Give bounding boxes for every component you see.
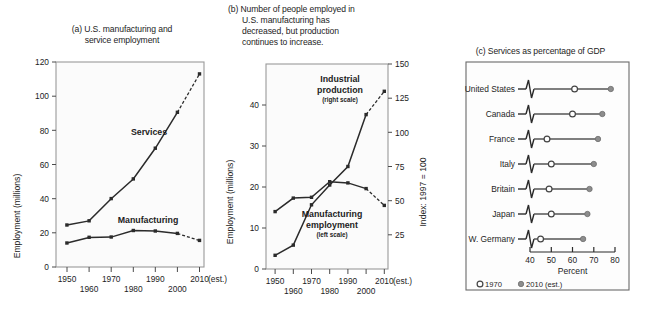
panel-c-marker-1970-3 [548, 161, 554, 167]
panel-b-ytick-left-10: 10 [250, 223, 260, 233]
panel-c-xtick-40: 40 [525, 255, 535, 265]
panel-b-ylabel-left: Employment (millions) [225, 160, 235, 245]
panel-a-y-axis [52, 62, 56, 267]
panel-a-ytick-120: 120 [35, 57, 49, 67]
panel-a-title-line2: service employment [26, 35, 218, 46]
panel-b-ytick-left-20: 20 [250, 182, 260, 192]
panel-b-title-line3: decreased, but production [228, 26, 437, 37]
panel-b-annot-me-line1: Manufacturing [302, 209, 363, 219]
panel-b-title-line4: continues to increase. [228, 37, 437, 48]
panel-c-marker-1970-5 [548, 211, 554, 217]
panel-a-chart: Employment (millions) 0 20 40 60 80 100 … [8, 46, 218, 321]
panel-b-annot-me-line2: employment [306, 220, 358, 230]
panel-b-ytick-right-150: 150 [395, 59, 409, 69]
panel-b-title-line1: (b) Number of people employed in [228, 4, 437, 15]
panel-b-annotation-industrial-production: Industrial production (right scale) [317, 74, 363, 104]
panel-b-title-line2: U.S. manufacturing has [228, 15, 437, 26]
legend-marker-2010-icon [518, 281, 523, 286]
panel-a-x-tick-labels-bottom: 1960 1980 2000 [80, 284, 187, 294]
panel-c-marker-1970-4 [546, 186, 552, 192]
panel-c-services-percentage-gdp: (c) Services as percentage of GDP United… [438, 46, 643, 308]
panel-b-ytick-left-30: 30 [250, 141, 260, 151]
panel-b-annot-ip-line2: production [317, 85, 363, 95]
panel-b-ytick-left-40: 40 [250, 100, 260, 110]
panel-b-ytick-right-75: 75 [395, 162, 405, 172]
panel-b-title: (b) Number of people employed in U.S. ma… [222, 4, 437, 48]
panel-c-xtick-70: 70 [589, 255, 599, 265]
panel-b-ytick-right-125: 125 [395, 93, 409, 103]
panel-c-country-label-1: Canada [486, 109, 516, 119]
panel-c-country-label-6: W. Germany [468, 234, 515, 244]
panel-a-series-label-manufacturing: Manufacturing [118, 215, 179, 225]
panel-c-marker-2010-5 [585, 211, 590, 216]
panel-a-title: (a) U.S. manufacturing and service emplo… [8, 24, 218, 46]
panel-a-ytick-20: 20 [40, 228, 50, 238]
panel-b-xtick-1980: 1980 [320, 286, 339, 296]
panel-c-chart: United States Canada France I [438, 62, 643, 294]
panel-a-ytick-100: 100 [35, 91, 49, 101]
panel-c-marker-1970-2 [544, 136, 550, 142]
panel-a-xtick-1950: 1950 [58, 274, 77, 284]
panel-a-title-line1: (a) U.S. manufacturing and [26, 24, 218, 35]
panel-a-ytick-60: 60 [40, 160, 50, 170]
panel-c-marker-2010-4 [587, 186, 592, 191]
panel-b-left-axis [262, 105, 266, 269]
panel-a-x-axis [67, 267, 200, 272]
panel-c-marker-2010-0 [608, 86, 613, 91]
panel-a-xtick-2010: 2010 [190, 274, 209, 284]
panel-c-legend-2010: 2010 (est.) [526, 280, 563, 289]
panel-c-country-label-0: United States [465, 84, 515, 94]
panel-a-plot-area [56, 62, 204, 267]
panel-a-xtick-2000: 2000 [168, 284, 187, 294]
panel-b-ytick-right-50: 50 [395, 196, 405, 206]
panel-a-ylabel: Employment (millions) [12, 174, 22, 259]
panel-b-annot-me-scale: (left scale) [316, 231, 347, 239]
panel-b-employment-vs-production: (b) Number of people employed in U.S. ma… [222, 4, 437, 326]
panel-b-left-tick-labels: 0 10 20 30 40 [250, 100, 260, 274]
panel-a-x-tick-labels-top: 1950 1970 1990 2010 [58, 274, 209, 284]
panel-a-series-label-services: Services [131, 127, 167, 137]
panel-c-xtick-60: 60 [568, 255, 578, 265]
panel-b-annot-ip-line1: Industrial [320, 74, 360, 84]
panel-c-legend-1970: 1970 [485, 280, 502, 289]
panel-a-xtick-1970: 1970 [102, 274, 121, 284]
panel-b-ytick-right-100: 100 [395, 128, 409, 138]
panel-b-xtick-1990: 1990 [339, 276, 358, 286]
panel-b-x-tick-labels-bottom: 1960 1980 2000 [284, 286, 376, 296]
panel-a-ytick-0: 0 [44, 262, 49, 272]
panel-b-ylabel-right: Index: 1997 = 100 [418, 157, 428, 226]
panel-a-ytick-80: 80 [40, 126, 50, 136]
legend-marker-1970-icon [477, 281, 483, 287]
panel-b-xtick-est-suffix: (est.) [393, 276, 412, 286]
panel-b-x-tick-labels-top: 1950 1970 1990 2010 [266, 276, 394, 286]
panel-a-manufacturing-service-employment: (a) U.S. manufacturing and service emplo… [8, 24, 218, 324]
panel-b-xtick-2010: 2010 [375, 276, 394, 286]
panel-b-xtick-1950: 1950 [266, 276, 285, 286]
panel-c-marker-1970-0 [572, 86, 578, 92]
panel-a-xtick-1980: 1980 [124, 284, 143, 294]
panel-b-xtick-1970: 1970 [302, 276, 321, 286]
panel-b-annot-ip-scale: (right scale) [322, 96, 358, 104]
panel-c-country-label-4: Britain [491, 184, 515, 194]
panel-b-x-axis [275, 269, 384, 274]
panel-c-title: (c) Services as percentage of GDP [438, 46, 643, 57]
panel-b-xtick-2000: 2000 [357, 286, 376, 296]
panel-c-xlabel: Percent [558, 266, 588, 276]
panel-c-marker-1970-6 [538, 236, 544, 242]
panel-b-ytick-right-25: 25 [395, 230, 405, 240]
panel-c-marker-1970-1 [570, 111, 576, 117]
panel-c-marker-2010-3 [591, 161, 596, 166]
panel-b-xtick-1960: 1960 [284, 286, 303, 296]
panel-c-country-label-5: Japan [492, 209, 515, 219]
panel-c-country-label-3: Italy [500, 159, 516, 169]
panel-c-xtick-50: 50 [547, 255, 557, 265]
panel-b-right-axis [388, 64, 392, 235]
panel-a-xtick-1990: 1990 [146, 274, 165, 284]
panel-c-marker-2010-1 [600, 111, 605, 116]
panel-c-xtick-80: 80 [610, 255, 620, 265]
panel-b-chart: Employment (millions) Index: 1997 = 100 … [222, 52, 437, 322]
panel-a-xtick-1960: 1960 [80, 284, 99, 294]
panel-b-right-tick-labels: 25 50 75 100 125 150 [395, 59, 409, 240]
panel-c-country-label-2: France [489, 134, 515, 144]
panel-a-ytick-40: 40 [40, 194, 50, 204]
